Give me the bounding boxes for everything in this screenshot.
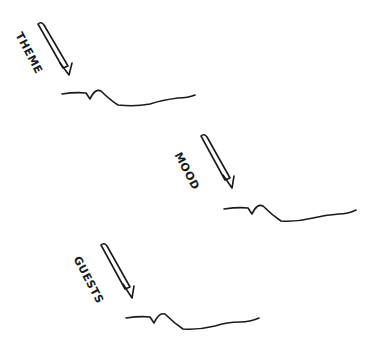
guests-arrow-icon	[0, 0, 371, 354]
guests-group: GUESTS	[0, 0, 371, 354]
